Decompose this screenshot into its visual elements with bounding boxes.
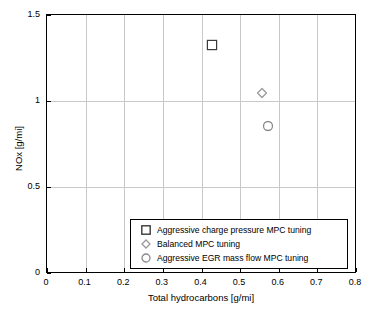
y-axis-tick — [47, 273, 51, 274]
x-axis-tick — [47, 268, 48, 272]
square-marker-icon — [135, 223, 157, 237]
y-axis-tick — [47, 187, 51, 188]
x-tick-label: 0 — [43, 277, 48, 287]
data-point-marker — [256, 88, 267, 99]
y-axis-tick — [47, 15, 51, 16]
x-tick-label: 0.8 — [349, 277, 362, 287]
legend-label: Balanced MPC tuning — [157, 237, 240, 251]
gridline-vertical — [86, 15, 87, 272]
gridline-horizontal — [47, 101, 355, 102]
y-tick-label: 1 — [0, 95, 40, 105]
y-axis-tick — [47, 101, 51, 102]
diamond-marker-icon — [135, 237, 157, 251]
y-tick-label: 0 — [0, 267, 40, 277]
legend-label: Aggressive charge pressure MPC tuning — [157, 223, 311, 237]
x-axis-tick — [124, 268, 125, 272]
gridline-horizontal — [47, 187, 355, 188]
legend-label: Aggressive EGR mass flow MPC tuning — [157, 251, 308, 265]
legend-item: Aggressive EGR mass flow MPC tuning — [135, 251, 343, 265]
legend-item: Balanced MPC tuning — [135, 237, 343, 251]
legend-item: Aggressive charge pressure MPC tuning — [135, 223, 343, 237]
x-tick-label: 0.3 — [156, 277, 169, 287]
gridline-vertical — [124, 15, 125, 272]
scatter-chart: 00.10.20.30.40.50.60.70.8 00.511.5 Total… — [0, 0, 374, 324]
x-tick-label: 0.7 — [310, 277, 323, 287]
x-tick-label: 0.4 — [194, 277, 207, 287]
circle-marker-icon — [135, 251, 157, 265]
x-tick-label: 0.5 — [233, 277, 246, 287]
data-point-marker — [262, 120, 273, 131]
x-tick-label: 0.6 — [271, 277, 284, 287]
y-axis-label: NOx [g/mi] — [13, 109, 24, 189]
x-tick-label: 0.1 — [78, 277, 91, 287]
y-tick-label: 1.5 — [0, 9, 40, 19]
chart-legend: Aggressive charge pressure MPC tuningBal… — [130, 219, 348, 269]
x-axis-tick — [86, 268, 87, 272]
x-tick-label: 0.2 — [117, 277, 130, 287]
data-point-marker — [206, 40, 217, 51]
x-axis-tick — [356, 268, 357, 272]
x-axis-label: Total hydrocarbons [g/mi] — [46, 292, 356, 303]
